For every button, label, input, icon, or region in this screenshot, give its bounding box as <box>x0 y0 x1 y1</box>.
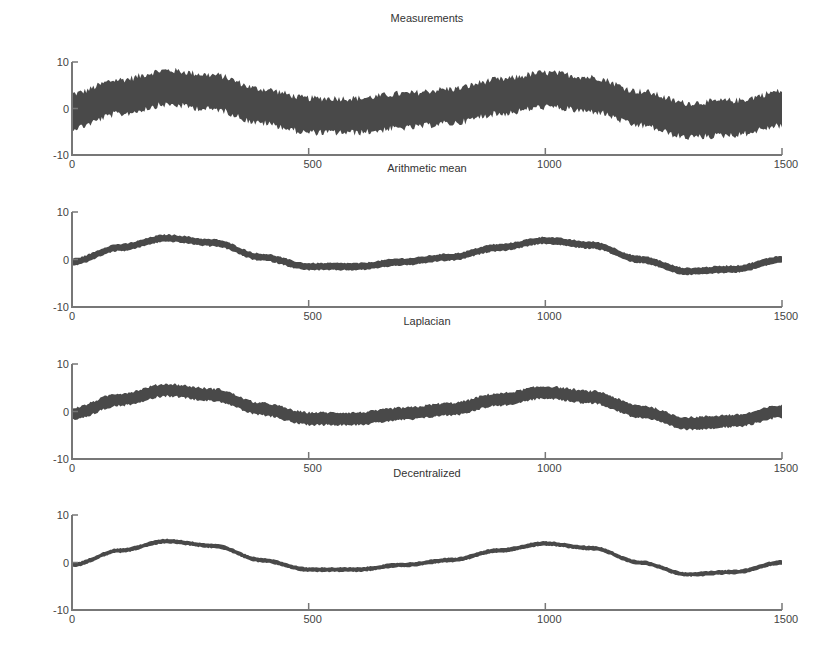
panel-title: Decentralized <box>393 467 460 479</box>
x-tick-label: 1000 <box>537 462 561 474</box>
x-tick-label: 1500 <box>774 613 798 625</box>
x-tick-label: 500 <box>303 462 321 474</box>
panel-1: Arithmetic mean-10010050010001500 <box>53 162 798 322</box>
y-tick-label: 10 <box>57 56 69 68</box>
y-tick-label: 10 <box>57 358 69 370</box>
y-tick-label: 0 <box>63 103 69 115</box>
signal-band <box>72 539 782 577</box>
x-tick-label: 0 <box>69 158 75 170</box>
x-tick-label: 1000 <box>537 613 561 625</box>
x-tick-label: 1500 <box>774 158 798 170</box>
panel-3: Decentralized-10010050010001500 <box>53 467 798 625</box>
x-tick-label: 1500 <box>774 310 798 322</box>
x-tick-label: 1000 <box>537 310 561 322</box>
y-tick-label: 10 <box>57 206 69 218</box>
x-tick-label: 0 <box>69 613 75 625</box>
signal-band <box>72 383 782 430</box>
panel-2: Laplacian-10010050010001500 <box>53 315 798 474</box>
x-tick-label: 1000 <box>537 158 561 170</box>
y-tick-label: -10 <box>53 604 69 616</box>
panel-0: Measurements-10010050010001500 <box>53 12 798 170</box>
x-tick-label: 1500 <box>774 462 798 474</box>
y-tick-label: -10 <box>53 301 69 313</box>
y-tick-label: 10 <box>57 509 69 521</box>
y-tick-label: 0 <box>63 406 69 418</box>
x-tick-label: 500 <box>303 310 321 322</box>
panel-title: Laplacian <box>403 315 450 327</box>
y-tick-label: -10 <box>53 149 69 161</box>
signal-band <box>72 234 782 275</box>
panel-title: Arithmetic mean <box>387 162 466 174</box>
signal-band <box>72 68 782 140</box>
x-tick-label: 500 <box>303 613 321 625</box>
y-tick-label: 0 <box>63 254 69 266</box>
y-tick-label: -10 <box>53 453 69 465</box>
figure: Measurements-10010050010001500Arithmetic… <box>0 0 840 667</box>
x-tick-label: 0 <box>69 462 75 474</box>
panel-title: Measurements <box>391 12 464 24</box>
x-tick-label: 500 <box>303 158 321 170</box>
x-tick-label: 0 <box>69 310 75 322</box>
y-tick-label: 0 <box>63 557 69 569</box>
